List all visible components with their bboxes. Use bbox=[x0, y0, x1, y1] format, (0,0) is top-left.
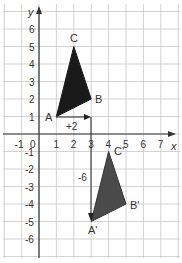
y-axis-label: y bbox=[27, 6, 35, 18]
svg-text:7: 7 bbox=[158, 139, 164, 150]
svg-text:1: 1 bbox=[29, 112, 35, 123]
label-b-prime: B' bbox=[130, 199, 139, 211]
label-b: B bbox=[95, 93, 102, 105]
svg-text:4: 4 bbox=[106, 139, 112, 150]
svg-text:-1: -1 bbox=[15, 139, 24, 150]
svg-text:2: 2 bbox=[29, 94, 35, 105]
horizontal-arrowhead-icon bbox=[84, 114, 91, 120]
svg-text:5: 5 bbox=[29, 42, 35, 53]
svg-text:6: 6 bbox=[140, 139, 146, 150]
svg-text:3: 3 bbox=[29, 77, 35, 88]
svg-text:4: 4 bbox=[29, 59, 35, 70]
label-a: A bbox=[45, 111, 53, 123]
svg-text:-1: -1 bbox=[25, 147, 34, 158]
y-axis-arrow-icon bbox=[36, 6, 42, 14]
label-c-prime: C' bbox=[114, 145, 124, 157]
label-a-prime: A' bbox=[88, 224, 97, 236]
svg-text:2: 2 bbox=[71, 139, 77, 150]
svg-text:6: 6 bbox=[29, 24, 35, 35]
x-axis-label: x bbox=[170, 140, 177, 152]
svg-text:-4: -4 bbox=[25, 199, 34, 210]
label-c: C bbox=[70, 32, 78, 44]
svg-text:-5: -5 bbox=[25, 217, 34, 228]
vertical-translation-label: -6 bbox=[78, 172, 87, 183]
svg-text:1: 1 bbox=[53, 139, 59, 150]
svg-text:-6: -6 bbox=[25, 234, 34, 245]
grid-svg: x y -101234567 123456-1-2-3-4-5-6 +2 -6 … bbox=[0, 0, 182, 263]
svg-text:-2: -2 bbox=[25, 164, 34, 175]
x-tick-labels: -101234567 bbox=[15, 139, 164, 150]
coordinate-grid-diagram: x y -101234567 123456-1-2-3-4-5-6 +2 -6 … bbox=[0, 0, 182, 263]
svg-text:-3: -3 bbox=[25, 182, 34, 193]
x-axis-arrow-icon bbox=[168, 131, 176, 137]
horizontal-translation-label: +2 bbox=[66, 121, 78, 132]
